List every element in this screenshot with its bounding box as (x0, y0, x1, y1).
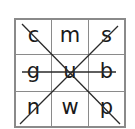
grid-cell-b: b (89, 55, 124, 92)
cell-letter: c (28, 25, 40, 46)
grid-cell-s: s (89, 20, 124, 55)
cell-letter: m (60, 25, 80, 46)
grid-cell-p: p (89, 92, 124, 126)
grid-cell-n: n (16, 92, 52, 126)
letter-grid: c m s g u b n w p (16, 20, 124, 126)
cell-letter: g (27, 61, 40, 82)
cell-letter: p (100, 97, 113, 118)
grid-cell-u: u (52, 55, 89, 92)
cell-letter: u (63, 61, 76, 82)
grid-cell-g: g (16, 55, 52, 92)
cell-letter: b (100, 61, 113, 82)
letter-grid-diagram: c m s g u b n w p (14, 18, 126, 128)
grid-cell-m: m (52, 20, 89, 55)
grid-cell-c: c (16, 20, 52, 55)
cell-letter: s (101, 25, 112, 46)
cell-letter: w (61, 97, 78, 118)
cell-letter: n (27, 97, 40, 118)
grid-cell-w: w (52, 92, 89, 126)
